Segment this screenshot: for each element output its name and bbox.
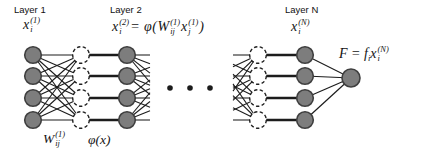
weights-sub: ij — [55, 139, 65, 148]
ellipsis-dot — [167, 85, 173, 91]
layer1-sum-nodes-node — [73, 112, 90, 129]
x1-base: x — [23, 17, 29, 32]
layer-2-label: Layer 2 — [110, 4, 142, 15]
xn-base: x — [291, 19, 297, 34]
layer2-nodes-node — [119, 47, 136, 64]
close-paren: ) — [199, 19, 204, 34]
xn-token: x(N)i — [291, 19, 311, 34]
activation-label: φ(x) — [88, 133, 110, 147]
xj-sub: j — [188, 27, 198, 36]
x1-token: x(1)i — [23, 17, 41, 32]
layer-1-label: Layer 1 — [14, 4, 46, 15]
layer2-nodes-node — [119, 112, 136, 129]
xj-base: x — [181, 19, 187, 34]
xj-token: x(1)j — [181, 19, 199, 34]
layer1-nodes-node — [25, 90, 42, 107]
layer2-formula: x(2)i= φ(W(1)ijx(1)j) — [112, 19, 204, 37]
output-x-base: x — [370, 46, 376, 61]
x2-base: x — [112, 19, 118, 34]
layerN-sum-nodes-node — [250, 90, 267, 107]
ellipsis-dot — [187, 85, 193, 91]
layerN-nodes-node — [297, 47, 314, 64]
layerN-nodes-node — [297, 68, 314, 85]
x1-sub: i — [30, 25, 40, 34]
layer1-formula: x(1)i — [23, 17, 41, 35]
xn-sub: i — [298, 27, 309, 36]
weights-token: W(1)ij — [43, 131, 66, 146]
ellipsis-dot — [207, 85, 213, 91]
layer1-nodes-node — [25, 68, 42, 85]
output-lhs: F = f — [339, 46, 368, 61]
layerN-nodes-node — [297, 112, 314, 129]
layer2-nodes-node — [119, 68, 136, 85]
layer1-nodes-node — [25, 47, 42, 64]
layerN-nodes-node — [297, 90, 314, 107]
layerN-sum-nodes-node — [250, 112, 267, 129]
layerN-sum-nodes-node — [250, 47, 267, 64]
layer1-sum-nodes-node — [73, 90, 90, 107]
neural-network-diagram: Layer 1 Layer 2 Layer N x(1)i x(2)i= φ(W… — [0, 0, 426, 158]
layer-n-label: Layer N — [285, 4, 318, 15]
layer1-sum-nodes-node — [73, 47, 90, 64]
output-formula: F = fix(N)i — [339, 46, 390, 64]
weight-sub: ij — [170, 27, 180, 36]
output-x-token: x(N)i — [370, 46, 390, 61]
weight-token: W(1)ij — [158, 19, 182, 34]
layer1-sum-nodes-node — [73, 68, 90, 85]
weights-label: W(1)ij — [43, 131, 66, 149]
layer1-nodes-node — [25, 112, 42, 129]
output-node — [342, 69, 360, 87]
output-x-sub: i — [377, 54, 388, 63]
equals-phi: = φ( — [130, 19, 157, 34]
layerN-sum-nodes-node — [250, 68, 267, 85]
weights-base: W — [43, 131, 54, 146]
layerN-formula: x(N)i — [291, 19, 311, 37]
x2-token: x(2)i — [112, 19, 130, 34]
weight-base: W — [158, 19, 170, 34]
x2-sub: i — [119, 27, 129, 36]
layer2-nodes-node — [119, 90, 136, 107]
